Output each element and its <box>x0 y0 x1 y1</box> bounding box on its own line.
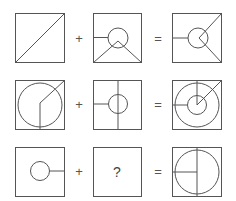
plus-sign-row2: + <box>71 97 87 113</box>
row3-result <box>173 148 222 197</box>
equals-sign-row3: = <box>150 164 166 180</box>
equals-sign-row1: = <box>150 31 166 47</box>
unknown-question-mark: ? <box>107 164 127 180</box>
plus-sign-row1: + <box>71 31 87 47</box>
row3-operand-a <box>16 148 65 197</box>
equals-sign-row2: = <box>150 97 166 113</box>
row2-operand-a <box>16 81 65 130</box>
row1-operand-a <box>16 14 65 63</box>
row1-operand-b <box>94 14 142 63</box>
plus-sign-row3: + <box>71 164 87 180</box>
row1-result <box>173 14 222 63</box>
row2-operand-b <box>94 81 142 130</box>
row2-result <box>173 81 222 130</box>
